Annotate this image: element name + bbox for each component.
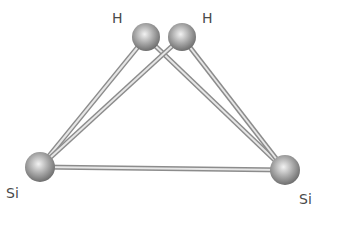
atom-h1 [132,23,160,51]
atoms-layer [25,23,300,185]
atom-si1 [25,152,55,182]
bond-h1-si1 [40,37,146,167]
bond-si1-si2 [40,167,285,170]
atom-si2 [270,155,300,185]
atom-label-h2: H [202,11,213,25]
atom-h2 [168,23,196,51]
bond-h2-si2 [182,37,285,170]
molecule-diagram: H H Si Si [0,0,339,227]
atom-label-h1: H [112,11,123,25]
bond-h2-si1 [40,37,182,167]
molecule-canvas [0,0,339,227]
bonds-layer [40,37,285,170]
atom-label-si1: Si [6,186,19,200]
bond-h1-si2 [146,37,285,170]
atom-label-si2: Si [299,192,312,206]
